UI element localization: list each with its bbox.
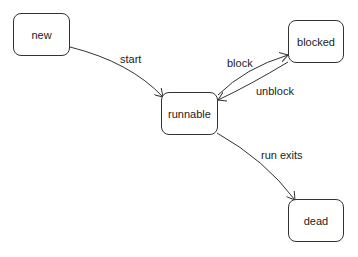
state-blocked-label: blocked bbox=[297, 36, 335, 48]
state-new-label: new bbox=[31, 29, 51, 41]
edge-label-run-exits: run exits bbox=[261, 149, 303, 161]
state-dead: dead bbox=[288, 199, 344, 242]
edge-start bbox=[70, 47, 163, 97]
state-runnable-label: runnable bbox=[168, 108, 211, 120]
state-blocked: blocked bbox=[288, 20, 344, 63]
edge-label-start: start bbox=[120, 53, 141, 65]
edge-label-unblock: unblock bbox=[256, 85, 294, 97]
state-runnable: runnable bbox=[161, 92, 218, 135]
edge-label-block: block bbox=[227, 57, 253, 69]
state-dead-label: dead bbox=[304, 215, 328, 227]
edge-run-exits bbox=[217, 133, 295, 200]
state-new: new bbox=[13, 13, 70, 56]
